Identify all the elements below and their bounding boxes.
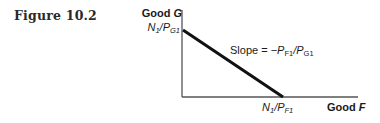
slope-prefix: Slope = − xyxy=(230,44,277,56)
x-axis-label-var: F xyxy=(359,101,366,113)
x-intercept-num: N xyxy=(262,101,270,113)
slope-annotation: Slope = −PF1/PG1 xyxy=(230,44,314,58)
x-axis-label-word: Good xyxy=(327,101,359,113)
chart-plot xyxy=(0,0,380,123)
slope-p1-sub: F1 xyxy=(284,49,293,58)
slope-div: /P xyxy=(293,44,303,56)
x-intercept-den: /P xyxy=(274,101,284,113)
x-axis-label: Good F xyxy=(327,101,366,113)
slope-p2-sub: G1 xyxy=(304,49,314,58)
budget-line xyxy=(183,30,283,97)
x-intercept-den-sub: F1 xyxy=(285,106,294,115)
x-intercept-label: N1/PF1 xyxy=(262,101,293,115)
